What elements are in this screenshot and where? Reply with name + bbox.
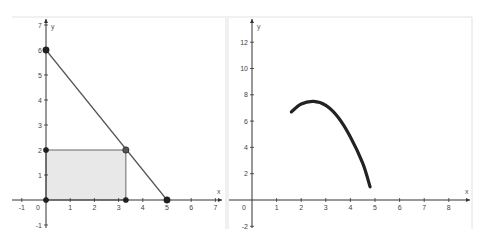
y-axis-arrow-icon — [44, 19, 48, 23]
right-graph-panel[interactable]: xy012345678-224681012 — [229, 19, 470, 230]
x-tick-label: 5 — [373, 204, 377, 211]
chart-canvas: xy0-11234567-11234567 xy012345678-224681… — [0, 0, 483, 239]
x-axis-arrow-icon — [218, 198, 222, 202]
point[interactable] — [43, 147, 48, 152]
point[interactable] — [123, 147, 129, 153]
origin-label: 0 — [36, 204, 40, 211]
x-axis-label: x — [217, 188, 221, 195]
y-tick-label: 5 — [38, 72, 42, 79]
x-tick-label: 3 — [324, 204, 328, 211]
x-tick-label: 3 — [117, 204, 121, 211]
left-graph-panel[interactable]: xy0-11234567-11234567 — [12, 19, 222, 229]
point[interactable] — [43, 47, 49, 53]
x-tick-label: 1 — [68, 204, 72, 211]
point[interactable] — [123, 197, 128, 202]
panel-divider[interactable] — [225, 17, 229, 229]
y-tick-label: 8 — [244, 91, 248, 98]
x-tick-label: 2 — [92, 204, 96, 211]
y-axis-arrow-icon — [250, 19, 254, 23]
y-tick-label: -2 — [242, 223, 248, 230]
x-tick-label: 7 — [213, 204, 217, 211]
y-tick-label: 12 — [240, 39, 248, 46]
x-tick-label: 8 — [447, 204, 451, 211]
y-tick-label: 1 — [38, 172, 42, 179]
x-tick-label: 7 — [422, 204, 426, 211]
x-tick-label: 2 — [299, 204, 303, 211]
y-tick-label: 6 — [244, 118, 248, 125]
y-tick-label: 4 — [244, 144, 248, 151]
x-tick-label: 4 — [141, 204, 145, 211]
y-tick-label: 6 — [38, 47, 42, 54]
point[interactable] — [43, 197, 48, 202]
point[interactable] — [164, 197, 170, 203]
y-tick-label: 10 — [240, 65, 248, 72]
y-tick-label: 4 — [38, 97, 42, 104]
x-tick-label: 1 — [275, 204, 279, 211]
y-tick-label: -1 — [36, 222, 42, 229]
x-tick-label: 4 — [348, 204, 352, 211]
function-curve[interactable] — [291, 101, 370, 187]
y-tick-label: 2 — [244, 170, 248, 177]
shaded-rectangle[interactable] — [46, 150, 126, 200]
x-tick-label: 6 — [398, 204, 402, 211]
y-tick-label: 7 — [38, 22, 42, 29]
x-axis-arrow-icon — [466, 198, 470, 202]
x-tick-label: -1 — [19, 204, 25, 211]
origin-label: 0 — [242, 204, 246, 211]
x-tick-label: 6 — [189, 204, 193, 211]
y-axis-label: y — [257, 23, 261, 31]
y-axis-label: y — [51, 23, 55, 31]
y-tick-label: 2 — [38, 147, 42, 154]
y-tick-label: 3 — [38, 122, 42, 129]
x-tick-label: 5 — [165, 204, 169, 211]
x-axis-label: x — [465, 188, 469, 195]
